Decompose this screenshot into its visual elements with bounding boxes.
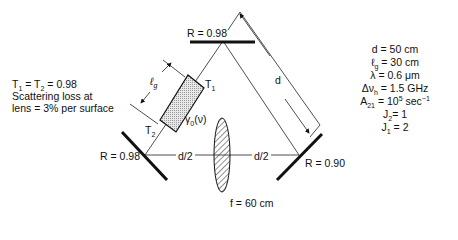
scattering-note-1: Scattering loss at (12, 90, 114, 102)
param-j2: J2= 1 (360, 108, 430, 121)
mirror-top-label: R = 0.98 (187, 27, 227, 39)
parameter-list: d = 50 cm ℓg = 30 cm λ = 0.6 μm Δνh = 1.… (360, 43, 430, 134)
distance-left-label: d/2 (176, 150, 195, 162)
param-lambda: λ = 0.6 μm (360, 69, 430, 82)
param-a21: A21 = 105 sec−1 (360, 95, 430, 108)
transmission-note: T1 = T2 = 0.98 (12, 78, 114, 90)
distance-right-label: d/2 (252, 150, 271, 162)
mirror-right-label: R = 0.90 (305, 157, 345, 169)
param-lg: ℓg = 30 cm (360, 56, 430, 69)
lens (214, 118, 230, 192)
gain-coefficient-label: γ0(ν) (185, 113, 206, 125)
face-t1-label: T1 (205, 78, 215, 90)
scattering-note-2: lens = 3% per surface (12, 102, 114, 114)
param-d: d = 50 cm (360, 43, 430, 56)
param-j1: J1 = 2 (360, 121, 430, 134)
left-notes: T1 = T2 = 0.98 Scattering loss at lens =… (12, 78, 114, 114)
param-delta-nu: Δνh = 1.5 GHz (360, 82, 430, 95)
distance-d-label: d (274, 74, 282, 86)
lens-label: f = 60 cm (230, 197, 273, 209)
gain-length-label: ℓg (150, 75, 157, 87)
face-t2-label: T2 (145, 124, 155, 136)
mirror-left-label: R = 0.98 (100, 150, 140, 162)
